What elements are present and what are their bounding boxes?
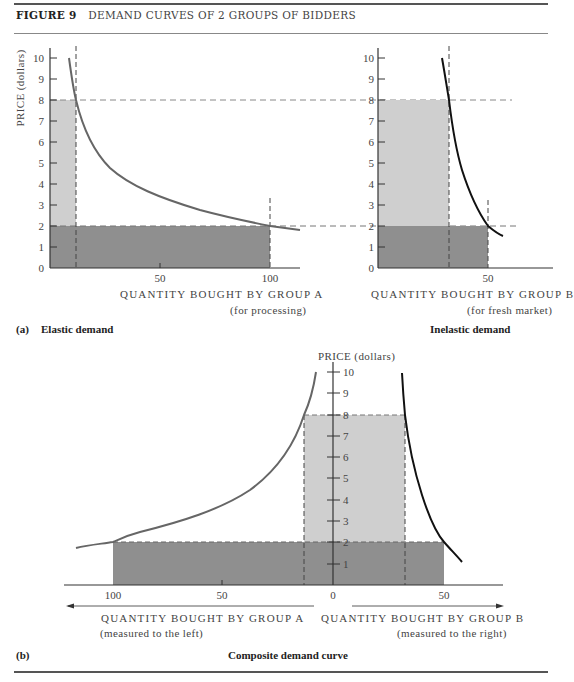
svg-text:8: 8 [343,409,349,421]
svg-text:100: 100 [105,589,122,601]
chart-composite: 1098 765 432 1 100 50 0 50 [64,362,504,609]
caption-b-composite: Composite demand curve [228,649,348,661]
caption-a-inelastic: Inelastic demand [430,323,510,335]
composite-curve-group-a [76,372,316,548]
chart-group-b-inelastic: 1098 765 432 10 50 [363,46,553,284]
composite-left-sublabel: (measured to the left) [100,627,203,639]
svg-text:50: 50 [155,272,167,284]
svg-text:5: 5 [343,472,349,484]
composite-right-sublabel: (measured to the right) [397,627,507,639]
svg-text:1: 1 [343,558,349,570]
svg-text:7: 7 [369,115,375,127]
svg-text:50: 50 [439,589,451,601]
svg-text:50: 50 [483,272,495,284]
demand-curve-group-a [69,58,300,230]
light-area-composite [304,415,405,542]
svg-text:9: 9 [343,387,349,399]
svg-text:6: 6 [39,136,45,148]
group-a-x-sublabel: (for processing) [230,304,306,316]
svg-text:0: 0 [39,262,45,274]
light-area-b [378,100,449,226]
svg-text:10: 10 [343,366,355,378]
demand-curve-group-b [442,58,503,236]
svg-text:10: 10 [363,52,375,64]
dark-area-composite [113,542,444,585]
svg-text:3: 3 [39,199,45,211]
svg-text:2: 2 [343,536,349,548]
svg-text:3: 3 [369,199,375,211]
svg-text:4: 4 [343,494,349,506]
svg-text:7: 7 [39,115,45,127]
svg-text:100: 100 [262,272,279,284]
panel-b-y-axis-label: PRICE (dollars) [318,350,395,362]
svg-text:6: 6 [369,136,375,148]
svg-text:50: 50 [217,589,229,601]
arrow-left-icon [66,604,74,609]
caption-a-letter: (a) [16,323,29,335]
caption-b-letter: (b) [16,649,29,661]
svg-text:2: 2 [369,220,375,232]
composite-curve-group-b [402,373,462,562]
svg-text:5: 5 [369,157,375,169]
svg-text:1: 1 [39,241,45,253]
group-a-x-label: QUANTITY BOUGHT BY GROUP A [120,288,323,300]
composite-left-label: QUANTITY BOUGHT BY GROUP A [101,612,304,624]
group-b-x-sublabel: (for fresh market) [467,304,552,316]
svg-text:4: 4 [39,178,45,190]
group-b-x-label: QUANTITY BOUGHT BY GROUP B [371,288,574,300]
svg-text:0: 0 [330,589,336,601]
arrow-right-icon [496,604,504,609]
caption-a-elastic: Elastic demand [41,323,113,335]
svg-text:1: 1 [369,241,375,253]
svg-text:9: 9 [39,73,45,85]
svg-text:2: 2 [39,220,45,232]
svg-text:10: 10 [33,52,45,64]
dark-area-b [378,226,488,268]
svg-text:5: 5 [39,157,45,169]
svg-text:8: 8 [39,94,45,106]
svg-text:7: 7 [343,430,349,442]
svg-text:3: 3 [343,515,349,527]
panel-a-y-axis-label: PRICE (dollars) [14,38,26,138]
svg-text:6: 6 [343,451,349,463]
svg-text:9: 9 [369,73,375,85]
svg-text:8: 8 [369,94,375,106]
bottom-rule [14,671,548,673]
svg-text:4: 4 [369,178,375,190]
dark-area-a [50,226,270,268]
composite-right-label: QUANTITY BOUGHT BY GROUP B [321,612,524,624]
svg-text:0: 0 [369,262,375,274]
